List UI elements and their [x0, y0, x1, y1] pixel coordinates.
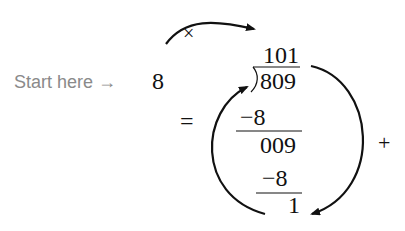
equals-symbol: =	[180, 108, 194, 135]
start-label: Start here →	[14, 72, 116, 93]
division-bracket	[251, 67, 257, 92]
step2-subtract: −8	[262, 165, 288, 192]
step1-result: 009	[260, 132, 296, 159]
cycle-arrows	[0, 0, 405, 231]
divisor: 8	[152, 68, 164, 95]
step1-subtract: −8	[240, 104, 266, 131]
plus-symbol: +	[378, 130, 390, 156]
quotient: 101	[263, 42, 299, 69]
multiply-symbol: ×	[183, 22, 194, 45]
dividend: 809	[260, 68, 296, 95]
remainder: 1	[288, 192, 300, 219]
multiply-arrow	[166, 23, 254, 44]
add-arrow	[311, 66, 363, 214]
